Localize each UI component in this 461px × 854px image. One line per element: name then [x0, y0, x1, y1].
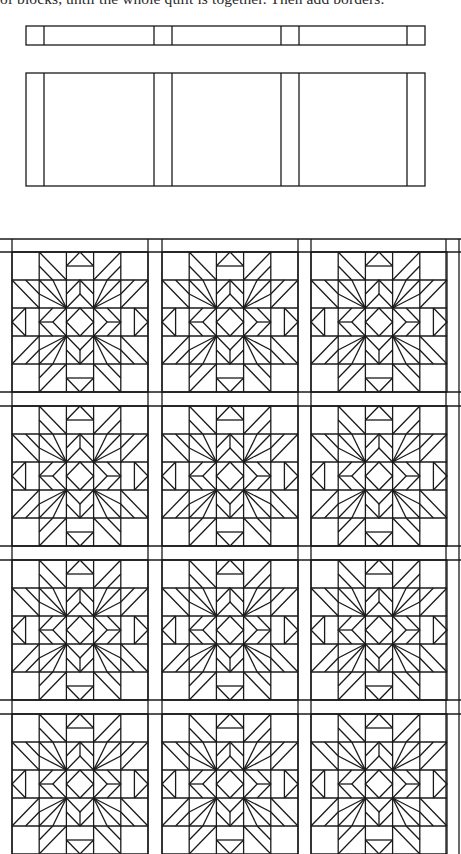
assembled-quilt-diagram: [0, 239, 461, 854]
quilt-block: [311, 252, 447, 392]
quilt-block: [162, 714, 298, 854]
quilt-block: [12, 252, 148, 392]
quilt-block: [12, 714, 148, 854]
block-row-with-sashing-diagram: [26, 73, 425, 186]
quilt-assembly-illustration: [0, 0, 461, 854]
quilt-block: [162, 560, 298, 700]
quilt-block: [311, 406, 447, 546]
quilt-block: [12, 406, 148, 546]
strip-outline: [26, 73, 425, 186]
quilt-block: [311, 560, 447, 700]
sashing-strip-diagram: [26, 26, 425, 45]
quilt-block: [311, 714, 447, 854]
quilt-block: [162, 252, 298, 392]
quilt-block: [12, 560, 148, 700]
quilt-block: [162, 406, 298, 546]
strip-outline: [26, 26, 425, 45]
